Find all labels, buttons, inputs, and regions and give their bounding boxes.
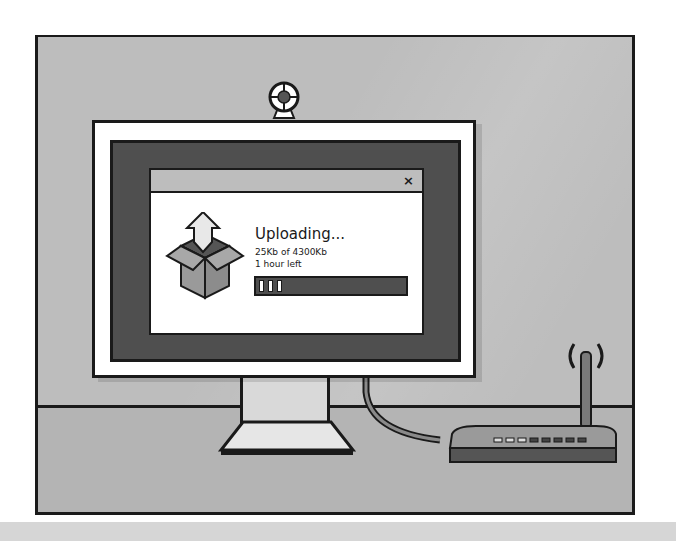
- upload-box-icon: [165, 212, 247, 300]
- progress-segment: [259, 280, 264, 292]
- upload-progress-bar: [254, 276, 408, 296]
- upload-size-status: 25Kb of 4300Kb: [255, 247, 327, 257]
- monitor-frame: × Uploading... 25Kb of 4300Kb 1 hour lef…: [92, 120, 476, 378]
- webcam-icon: [267, 80, 301, 120]
- upload-title: Uploading...: [255, 225, 345, 243]
- monitor-stand-base: [215, 420, 360, 460]
- wifi-router-icon: [436, 338, 636, 468]
- dialog-titlebar: ×: [151, 170, 422, 193]
- close-icon[interactable]: ×: [403, 172, 414, 190]
- upload-dialog: × Uploading... 25Kb of 4300Kb 1 hour lef…: [149, 168, 424, 335]
- progress-segment: [268, 280, 273, 292]
- upload-time-remaining: 1 hour left: [255, 259, 302, 269]
- monitor-screen: × Uploading... 25Kb of 4300Kb 1 hour lef…: [110, 140, 461, 362]
- progress-segment: [277, 280, 282, 292]
